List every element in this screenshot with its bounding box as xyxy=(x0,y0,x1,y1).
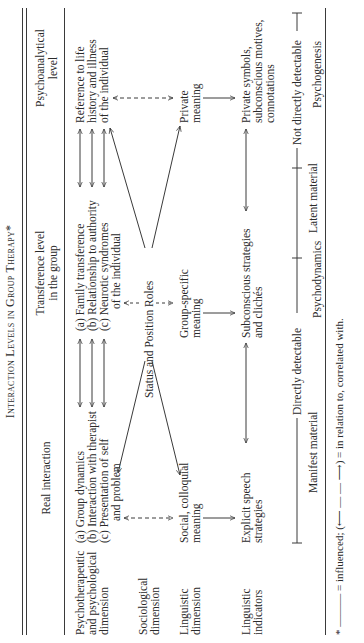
connector-layer xyxy=(0,0,364,643)
arrow-status-to-private xyxy=(152,126,180,248)
arrow-status-to-social xyxy=(152,361,180,475)
arrow-status-to-real-c xyxy=(118,361,145,473)
diagram-page: Interaction Levels in Group Therapy* Rea… xyxy=(0,0,364,643)
arrow-status-to-reference xyxy=(110,128,145,248)
